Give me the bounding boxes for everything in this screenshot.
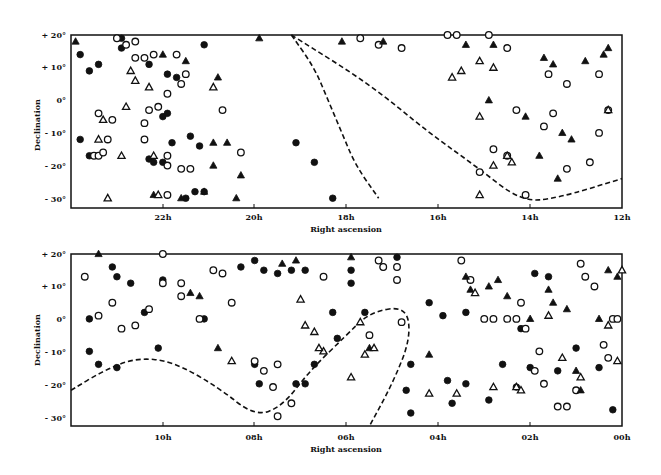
open-circle-marker bbox=[160, 251, 167, 258]
filled-circle-marker bbox=[95, 61, 102, 68]
open-circle-marker bbox=[600, 342, 607, 349]
open-circle-marker bbox=[564, 166, 571, 173]
filled-circle-marker bbox=[251, 257, 258, 264]
open-circle-marker bbox=[577, 260, 584, 267]
open-circle-marker bbox=[141, 120, 148, 127]
y-tick: 0° bbox=[56, 314, 66, 324]
filled-circle-marker bbox=[334, 335, 341, 342]
filled-circle-marker bbox=[288, 267, 295, 274]
bottom-data-points bbox=[81, 250, 625, 419]
y-tick: + 10° bbox=[41, 62, 66, 72]
filled-triangle-marker bbox=[214, 74, 221, 80]
filled-circle-marker bbox=[573, 345, 580, 352]
filled-circle-marker bbox=[127, 280, 134, 287]
open-triangle-marker bbox=[150, 152, 157, 158]
open-circle-marker bbox=[518, 299, 525, 306]
filled-triangle-marker bbox=[380, 38, 387, 44]
open-circle-marker bbox=[150, 51, 157, 58]
y-tick: 0° bbox=[56, 95, 66, 105]
open-circle-marker bbox=[380, 264, 387, 271]
open-triangle-marker bbox=[490, 64, 497, 70]
filled-circle-marker bbox=[302, 267, 309, 274]
filled-circle-marker bbox=[499, 361, 506, 368]
filled-circle-marker bbox=[169, 139, 176, 146]
open-circle-marker bbox=[114, 35, 121, 42]
y-tick: - 30° bbox=[45, 413, 66, 423]
open-circle-marker bbox=[109, 299, 116, 306]
galactic-boundary-right bbox=[291, 35, 622, 200]
x-axis-label: Right ascension bbox=[310, 224, 382, 234]
bottom-panel: + 20° + 10° 0° - 10° - 20° - 30° 10h 08h… bbox=[32, 249, 631, 454]
filled-triangle-marker bbox=[582, 57, 589, 63]
open-circle-marker bbox=[274, 413, 281, 420]
open-circle-marker bbox=[95, 312, 102, 319]
open-circle-marker bbox=[141, 136, 148, 143]
filled-triangle-marker bbox=[467, 286, 474, 292]
filled-circle-marker bbox=[293, 139, 300, 146]
open-triangle-marker bbox=[145, 83, 152, 89]
open-triangle-marker bbox=[311, 328, 318, 334]
filled-triangle-marker bbox=[563, 305, 570, 311]
filled-circle-marker bbox=[403, 387, 410, 394]
x-tick: 20h bbox=[246, 212, 263, 222]
filled-triangle-marker bbox=[572, 367, 579, 373]
open-triangle-marker bbox=[302, 322, 309, 328]
open-circle-marker bbox=[182, 71, 189, 78]
open-circle-marker bbox=[81, 273, 88, 280]
open-circle-marker bbox=[513, 316, 520, 323]
open-circle-marker bbox=[320, 273, 327, 280]
open-triangle-marker bbox=[426, 390, 433, 396]
filled-circle-marker bbox=[150, 159, 157, 166]
open-circle-marker bbox=[375, 257, 382, 264]
filled-circle-marker bbox=[426, 299, 433, 306]
open-circle-marker bbox=[453, 32, 460, 39]
filled-triangle-marker bbox=[527, 315, 534, 321]
filled-circle-marker bbox=[274, 270, 281, 277]
open-circle-marker bbox=[596, 71, 603, 78]
open-triangle-marker bbox=[210, 83, 217, 89]
filled-circle-marker bbox=[329, 195, 336, 202]
filled-triangle-marker bbox=[600, 51, 607, 57]
open-triangle-marker bbox=[127, 67, 134, 73]
open-triangle-marker bbox=[297, 296, 304, 302]
filled-circle-marker bbox=[86, 68, 93, 75]
filled-triangle-marker bbox=[187, 289, 194, 295]
filled-triangle-marker bbox=[292, 257, 299, 263]
open-triangle-marker bbox=[476, 57, 483, 63]
x-tick: 22h bbox=[155, 212, 172, 222]
open-triangle-marker bbox=[476, 113, 483, 119]
open-circle-marker bbox=[109, 117, 116, 124]
filled-circle-marker bbox=[109, 264, 116, 271]
open-triangle-marker bbox=[545, 312, 552, 318]
x-axis-label: Right ascension bbox=[310, 444, 382, 454]
open-triangle-marker bbox=[118, 152, 125, 158]
filled-triangle-marker bbox=[210, 162, 217, 168]
filled-circle-marker bbox=[114, 364, 121, 371]
filled-triangle-marker bbox=[279, 260, 286, 266]
open-circle-marker bbox=[398, 45, 405, 52]
filled-circle-marker bbox=[238, 264, 245, 271]
open-triangle-marker bbox=[123, 103, 130, 109]
filled-triangle-marker bbox=[72, 38, 79, 44]
filled-triangle-marker bbox=[237, 172, 244, 178]
open-triangle-marker bbox=[577, 374, 584, 380]
open-circle-marker bbox=[522, 192, 529, 199]
filled-triangle-marker bbox=[494, 276, 501, 282]
top-panel: + 20° + 10° 0° - 10° - 20° - 30° 22h 20h… bbox=[32, 30, 631, 234]
open-circle-marker bbox=[219, 270, 226, 277]
y-axis-label: Declination bbox=[32, 99, 42, 151]
bottom-plot-frame bbox=[71, 254, 622, 426]
filled-triangle-marker bbox=[595, 315, 602, 321]
open-circle-marker bbox=[178, 280, 185, 287]
galactic-boundary-left bbox=[291, 35, 378, 198]
y-tick: + 10° bbox=[41, 281, 66, 291]
filled-circle-marker bbox=[311, 159, 318, 166]
filled-triangle-marker bbox=[550, 299, 557, 305]
open-triangle-marker bbox=[95, 136, 102, 142]
open-circle-marker bbox=[366, 332, 373, 339]
open-circle-marker bbox=[146, 107, 153, 114]
open-circle-marker bbox=[541, 381, 548, 388]
filled-circle-marker bbox=[114, 273, 121, 280]
filled-circle-marker bbox=[610, 406, 617, 413]
open-circle-marker bbox=[458, 257, 465, 264]
